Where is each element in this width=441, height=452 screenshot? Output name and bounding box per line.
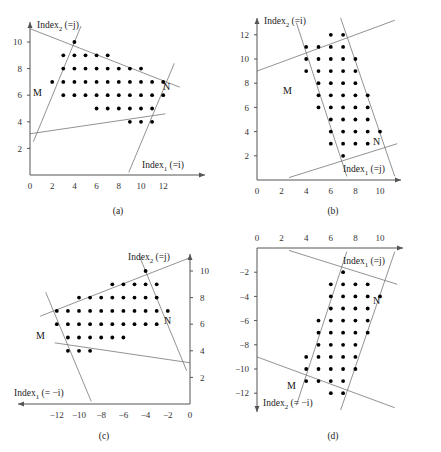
panel-b-constraints (257, 18, 397, 178)
constraint-line-left (296, 252, 346, 406)
index-space-figure: 024681012246810 Index1 (=i) Index2 (=j) … (0, 0, 441, 452)
y-tick-label: 8 (200, 293, 205, 303)
y-axis-arrow-b (255, 18, 260, 24)
lattice-point (354, 343, 358, 347)
lattice-point (117, 107, 121, 111)
lattice-point (99, 296, 103, 300)
lattice-point (366, 142, 370, 146)
lattice-point (88, 349, 92, 353)
lattice-point (354, 118, 358, 122)
lattice-point (95, 80, 99, 84)
lattice-point (354, 319, 358, 323)
lattice-point (366, 331, 370, 335)
lattice-point (329, 307, 333, 311)
panel-d-plot: 0246810−2−4−6−8−10−12 Index1 (=j) Index2… (221, 226, 441, 452)
y-tick-label: 10 (13, 37, 23, 47)
y-tick-label: 2 (200, 373, 205, 383)
x-tick-label: 0 (188, 410, 193, 420)
lattice-point (341, 154, 345, 158)
lattice-point (366, 130, 370, 134)
lattice-point (144, 322, 148, 326)
y-axis-label-a: Index2 (=j) (37, 20, 79, 33)
panel-c: −12−10−8−6−4−20246810 Index1 (= −i) Inde… (0, 226, 220, 452)
lattice-point (304, 69, 308, 73)
lattice-point (55, 322, 59, 326)
lattice-point (317, 45, 321, 49)
lattice-point (122, 336, 126, 340)
lattice-point (366, 307, 370, 311)
lattice-point (128, 93, 132, 97)
lattice-point (122, 322, 126, 326)
y-axis-label-b: Index2 (=i) (264, 16, 306, 29)
lattice-point (106, 67, 110, 71)
lattice-point (139, 107, 143, 111)
y-tick-label: −6 (239, 316, 249, 326)
lattice-point (150, 107, 154, 111)
lattice-point (366, 295, 370, 299)
lattice-point (84, 67, 88, 71)
lattice-point (66, 336, 70, 340)
panel-b-axes (255, 18, 402, 183)
lattice-point (55, 309, 59, 313)
lattice-point (128, 120, 132, 124)
y-tick-label: 4 (200, 346, 205, 356)
lattice-point (317, 93, 321, 97)
lattice-point (161, 93, 165, 97)
lattice-point (341, 45, 345, 49)
x-tick-label: 0 (255, 186, 260, 196)
lattice-point (341, 33, 345, 37)
lattice-point (354, 106, 358, 110)
lattice-point (378, 130, 382, 134)
vertex-label-m-c: M (36, 330, 45, 341)
lattice-point (304, 57, 308, 61)
lattice-point (317, 81, 321, 85)
x-tick-label: 6 (94, 181, 99, 191)
y-tick-label: 2 (18, 144, 23, 154)
y-axis-arrow-a (28, 22, 33, 28)
x-tick-label: −2 (163, 410, 173, 420)
x-tick-label: −6 (119, 410, 129, 420)
y-tick-label: 6 (200, 319, 205, 329)
lattice-point (341, 319, 345, 323)
lattice-point (61, 53, 65, 57)
lattice-point (304, 45, 308, 49)
lattice-point (155, 309, 159, 313)
constraint-line-left (296, 23, 346, 177)
panel-a: 024681012246810 Index1 (=i) Index2 (=j) … (0, 0, 220, 226)
panel-a-points (50, 40, 165, 124)
lattice-point (304, 379, 308, 383)
lattice-point (95, 93, 99, 97)
y-tick-label: 10 (240, 54, 250, 64)
vertex-label-n-d: N (373, 295, 380, 306)
lattice-point (106, 107, 110, 111)
x-tick-label: 6 (329, 233, 334, 243)
y-tick-label: 8 (18, 64, 23, 74)
lattice-point (73, 53, 77, 57)
lattice-point (354, 142, 358, 146)
lattice-point (133, 282, 137, 286)
lattice-point (155, 322, 159, 326)
lattice-point (66, 309, 70, 313)
x-axis-label-b: Index1 (=j) (343, 164, 385, 177)
panel-caption-c: (c) (99, 431, 110, 442)
y-tick-label: −8 (239, 340, 249, 350)
x-tick-label: 6 (329, 186, 334, 196)
lattice-point (61, 80, 65, 84)
lattice-point (139, 80, 143, 84)
lattice-point (341, 367, 345, 371)
y-tick-label: 8 (245, 78, 250, 88)
lattice-point (341, 282, 345, 286)
lattice-point (317, 57, 321, 61)
lattice-point (77, 322, 81, 326)
lattice-point (354, 355, 358, 359)
lattice-point (354, 295, 358, 299)
panel-d-constraints (257, 250, 397, 410)
lattice-point (144, 269, 148, 273)
panel-c-plot: −12−10−8−6−4−20246810 Index1 (= −i) Inde… (0, 226, 220, 452)
vertex-label-m-d: M (287, 380, 296, 391)
lattice-point (317, 379, 321, 383)
lattice-point (329, 142, 333, 146)
lattice-point (117, 67, 121, 71)
lattice-point (88, 309, 92, 313)
lattice-point (341, 379, 345, 383)
